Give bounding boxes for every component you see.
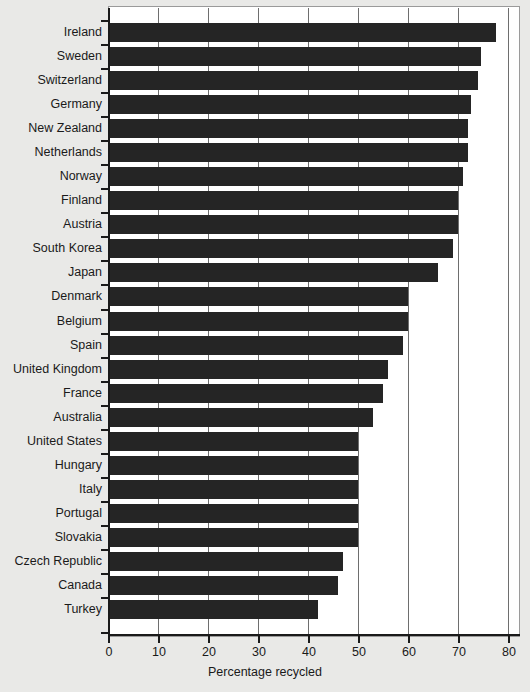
category-label-italy: Italy xyxy=(0,482,102,496)
category-label-portugal: Portugal xyxy=(0,506,102,520)
category-label-canada: Canada xyxy=(0,578,102,592)
bar-united-kingdom xyxy=(108,360,388,379)
bar-hungary xyxy=(108,456,358,475)
bar-ireland xyxy=(108,23,496,42)
x-tick-label-60: 60 xyxy=(389,645,429,659)
x-tick-20 xyxy=(208,636,210,643)
bar-slovakia xyxy=(108,528,358,547)
x-tick-label-0: 0 xyxy=(89,645,129,659)
category-label-finland: Finland xyxy=(0,193,102,207)
bar-finland xyxy=(108,191,458,210)
category-label-turkey: Turkey xyxy=(0,602,102,616)
x-tick-label-30: 30 xyxy=(239,645,279,659)
bar-australia xyxy=(108,408,373,427)
x-tick-60 xyxy=(408,636,410,643)
x-tick-70 xyxy=(458,636,460,643)
category-label-new-zealand: New Zealand xyxy=(0,121,102,135)
x-tick-30 xyxy=(258,636,260,643)
category-label-australia: Australia xyxy=(0,410,102,424)
x-tick-label-10: 10 xyxy=(139,645,179,659)
category-label-austria: Austria xyxy=(0,217,102,231)
bar-germany xyxy=(108,95,471,114)
category-label-netherlands: Netherlands xyxy=(0,145,102,159)
bar-netherlands xyxy=(108,143,468,162)
bar-japan xyxy=(108,263,438,282)
category-label-norway: Norway xyxy=(0,169,102,183)
bar-austria xyxy=(108,215,458,234)
x-tick-80 xyxy=(508,636,510,643)
bar-new-zealand xyxy=(108,119,468,138)
category-label-spain: Spain xyxy=(0,338,102,352)
bar-south-korea xyxy=(108,239,453,258)
category-label-slovakia: Slovakia xyxy=(0,530,102,544)
category-label-germany: Germany xyxy=(0,97,102,111)
category-label-united-states: United States xyxy=(0,434,102,448)
category-label-hungary: Hungary xyxy=(0,458,102,472)
bar-denmark xyxy=(108,287,408,306)
bar-portugal xyxy=(108,504,358,523)
bar-united-states xyxy=(108,432,358,451)
bar-belgium xyxy=(108,312,408,331)
x-tick-0 xyxy=(108,636,110,643)
x-tick-40 xyxy=(308,636,310,643)
category-label-denmark: Denmark xyxy=(0,289,102,303)
category-label-czech-republic: Czech Republic xyxy=(0,554,102,568)
bar-turkey xyxy=(108,600,318,619)
x-tick-label-50: 50 xyxy=(339,645,379,659)
x-tick-label-40: 40 xyxy=(289,645,329,659)
x-axis-title: Percentage recycled xyxy=(0,665,530,679)
x-tick-50 xyxy=(358,636,360,643)
bar-czech-republic xyxy=(108,552,343,571)
chart-page: IrelandSwedenSwitzerlandGermanyNew Zeala… xyxy=(0,0,530,692)
category-label-belgium: Belgium xyxy=(0,314,102,328)
category-label-france: France xyxy=(0,386,102,400)
bar-spain xyxy=(108,336,403,355)
gridline-80 xyxy=(508,8,509,635)
bar-italy xyxy=(108,480,358,499)
bar-sweden xyxy=(108,47,481,66)
x-tick-label-70: 70 xyxy=(439,645,479,659)
x-tick-label-20: 20 xyxy=(189,645,229,659)
category-label-switzerland: Switzerland xyxy=(0,73,102,87)
bar-norway xyxy=(108,167,463,186)
category-label-ireland: Ireland xyxy=(0,25,102,39)
category-label-japan: Japan xyxy=(0,265,102,279)
category-label-sweden: Sweden xyxy=(0,49,102,63)
bar-france xyxy=(108,384,383,403)
x-tick-label-80: 80 xyxy=(489,645,529,659)
bar-switzerland xyxy=(108,71,478,90)
category-label-united-kingdom: United Kingdom xyxy=(0,362,102,376)
bar-canada xyxy=(108,576,338,595)
category-label-south-korea: South Korea xyxy=(0,241,102,255)
y-axis-spine xyxy=(108,8,110,635)
x-tick-10 xyxy=(158,636,160,643)
